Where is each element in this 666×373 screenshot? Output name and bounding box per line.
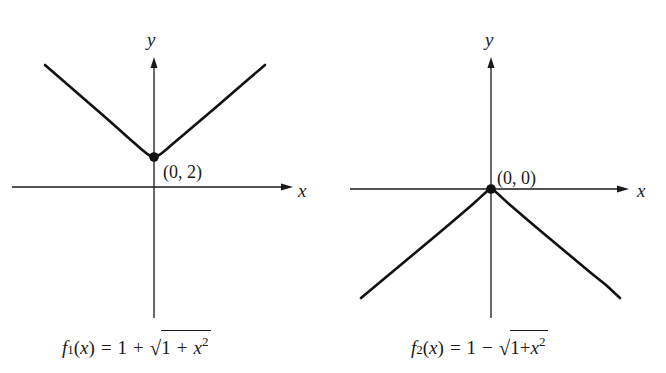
caption1-arg-var: x (80, 337, 88, 358)
right-x-axis-arrow-icon (617, 186, 629, 193)
left-point-marker (149, 152, 159, 162)
right-graph-caption: f2(x) = 1 − √1+x2 (411, 330, 548, 360)
caption1-constant: 1 (118, 337, 128, 359)
caption1-radicand-const: 1 (161, 337, 171, 358)
left-x-axis-label: x (297, 180, 307, 201)
caption1-equals: = (101, 337, 112, 359)
caption1-radicand-var: x (194, 337, 202, 358)
left-graph: y x (0, 2) (12, 29, 307, 318)
right-y-axis-label: y (483, 29, 494, 50)
caption1-radicand: 1+x2 (161, 330, 210, 357)
caption1-radicand-exp: 2 (202, 334, 209, 349)
left-y-axis-arrow-icon (151, 57, 158, 68)
caption2-equals: = (450, 337, 461, 359)
caption2-arg-var: x (429, 337, 437, 358)
caption2-radicand: 1+x2 (510, 330, 547, 357)
right-y-axis-arrow-icon (488, 57, 495, 68)
right-graph: y x (0, 0) (350, 29, 646, 318)
left-x-axis-arrow-icon (281, 184, 293, 191)
left-y-axis-label: y (145, 29, 156, 50)
right-point-label: (0, 0) (497, 168, 536, 189)
sqrt-icon: √ (150, 336, 162, 361)
caption2-radicand-exp: 2 (539, 334, 546, 349)
caption2-radicand-const: 1 (510, 337, 520, 358)
sqrt-icon: √ (499, 336, 511, 361)
caption2-arg: (x) (423, 337, 444, 359)
caption2-constant: 1 (467, 337, 477, 359)
caption2-radicand-op: + (520, 337, 531, 358)
left-graph-caption: f1(x) = 1 + √1+x2 (62, 330, 211, 360)
caption1-radicand-op: + (177, 337, 188, 358)
caption1-arg: (x) (74, 337, 95, 359)
caption1-operator: + (133, 337, 144, 359)
right-point-marker (486, 184, 496, 194)
left-curve-f1 (45, 65, 265, 157)
caption2-operator: − (482, 337, 493, 359)
right-x-axis-label: x (636, 180, 646, 201)
caption2-radicand-var: x (531, 337, 539, 358)
left-point-label: (0, 2) (163, 162, 202, 183)
figure-canvas: y x (0, 2) y x (0, 0) (0, 0, 666, 373)
